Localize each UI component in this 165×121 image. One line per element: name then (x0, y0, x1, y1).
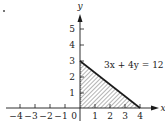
x-tick-label: −4 (9, 111, 23, 121)
y-tick-label: 4 (69, 40, 75, 50)
linear-inequality-graph: −4 −3 −2 −1 0 1 2 3 4 1 2 3 4 5 y x 3x +… (0, 0, 165, 121)
x-tick-label: 0 (71, 111, 77, 121)
x-tick-label: −2 (39, 111, 52, 121)
stray-mark (3, 10, 5, 12)
equation-label: 3x + 4y = 12 (104, 60, 164, 70)
y-tick-label: 5 (69, 24, 75, 34)
y-axis-label: y (76, 1, 83, 11)
x-tick-label: 2 (107, 111, 113, 121)
x-tick-label: 4 (137, 111, 143, 121)
x-tick-label: −1 (54, 111, 67, 121)
y-tick-label: 3 (69, 56, 75, 66)
x-tick-label: 1 (92, 111, 98, 121)
x-axis-label: x (160, 103, 165, 113)
y-tick-label: 1 (69, 88, 75, 98)
x-tick-label: 3 (122, 111, 128, 121)
x-tick-label: −3 (24, 111, 38, 121)
y-tick-label: 2 (69, 72, 75, 82)
x-axis-arrow-icon (151, 106, 159, 111)
y-axis-arrow-icon (78, 14, 83, 22)
